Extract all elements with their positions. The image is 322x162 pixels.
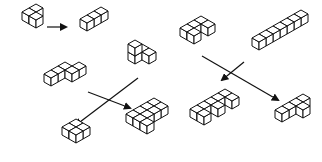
cube xyxy=(201,20,215,36)
cube xyxy=(211,101,225,117)
piece-square xyxy=(62,119,90,143)
cube xyxy=(128,40,142,56)
piece-i-tricube xyxy=(80,7,108,31)
piece-s-tetracube xyxy=(44,62,86,86)
cube xyxy=(296,102,310,118)
cube xyxy=(197,109,211,125)
piece-l-small xyxy=(128,40,156,64)
cube xyxy=(80,15,94,31)
cube xyxy=(275,106,289,122)
piece-c-pentacube xyxy=(180,16,215,44)
arrow-bar-to-comb xyxy=(222,62,244,80)
cube xyxy=(140,118,154,134)
diagram-svg xyxy=(0,0,322,162)
piece-comb xyxy=(190,89,239,125)
cube xyxy=(252,34,266,50)
cube xyxy=(225,93,239,109)
cube xyxy=(29,12,43,28)
piece-long-bar xyxy=(252,10,308,50)
polycube-diagram xyxy=(0,0,322,162)
cube xyxy=(65,66,79,82)
piece-t-pentacube xyxy=(275,94,310,122)
cube xyxy=(44,70,58,86)
cube xyxy=(187,28,201,44)
arrow-c-to-t xyxy=(202,56,278,100)
cube xyxy=(69,127,83,143)
cube xyxy=(142,48,156,64)
piece-u-composite xyxy=(126,98,168,134)
piece-v-tricube xyxy=(22,4,43,28)
pieces-group xyxy=(22,4,310,143)
